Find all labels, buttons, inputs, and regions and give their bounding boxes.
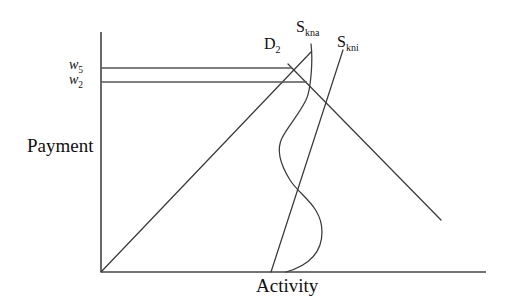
demand-curve-falling-segment (288, 64, 441, 220)
y-axis-label: Payment (27, 136, 94, 155)
diagram-figure: Payment Activity w5 w2 D2 Skna Skni (0, 0, 508, 306)
supply-kni-label: Skni (337, 34, 359, 53)
supply-kna-label: Skna (296, 19, 319, 38)
wage-level-w2-subscript: 2 (78, 80, 83, 90)
wage-level-w2: w2 (69, 73, 83, 90)
demand-curve-label-subscript: 2 (276, 44, 281, 55)
supply-kna-label-base: S (296, 18, 305, 35)
supply-kna-label-subscript: kna (305, 27, 319, 38)
supply-kni-label-subscript: kni (346, 42, 359, 53)
wage-level-w2-base: w (69, 72, 78, 87)
x-axis-label: Activity (256, 276, 318, 295)
demand-curve-rising-segment (101, 52, 311, 272)
demand-curve-label-base: D (264, 35, 276, 52)
wage-level-w5-base: w (69, 57, 78, 72)
supply-kni-label-base: S (337, 33, 346, 50)
demand-curve-label: D2 (264, 36, 281, 55)
